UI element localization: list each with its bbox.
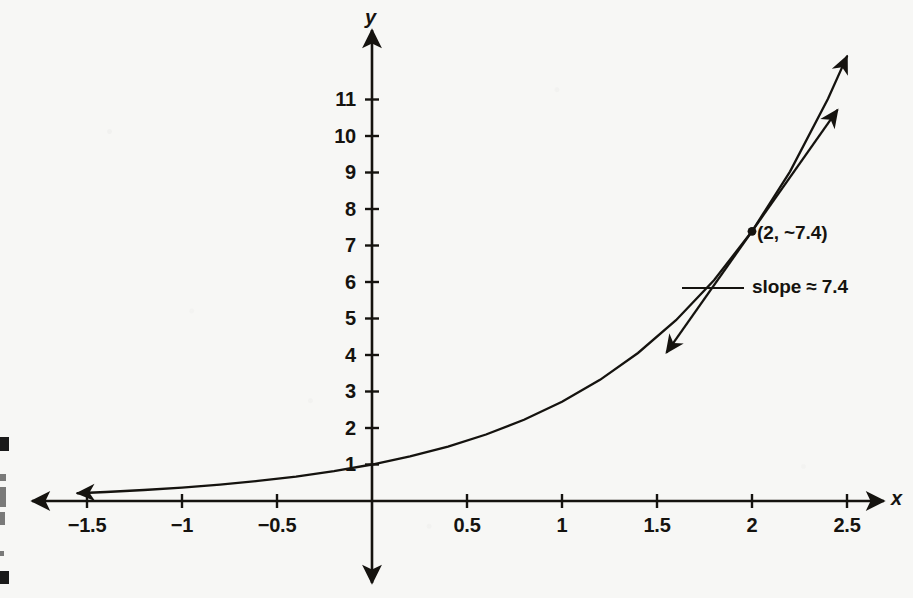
chart-figure: 11 10 9 8 7 6 5 4 3 2 1 −1.5 −1 −0.5 0.5… xyxy=(0,0,913,598)
x-tick-label-neg0-5: −0.5 xyxy=(237,514,317,537)
x-tick-label-neg1: −1 xyxy=(142,514,222,537)
y-tick-label-9: 9 xyxy=(310,161,356,184)
x-tick-label-neg1-5: −1.5 xyxy=(47,514,127,537)
x-tick-label-1: 1 xyxy=(522,514,602,537)
y-tick-label-11: 11 xyxy=(310,88,356,111)
y-tick-label-5: 5 xyxy=(310,307,356,330)
x-tick-label-0-5: 0.5 xyxy=(427,514,507,537)
y-tick-label-2: 2 xyxy=(310,417,356,440)
y-tick-label-10: 10 xyxy=(310,125,356,148)
tangent-point-label: (2, ~7.4) xyxy=(757,222,827,244)
y-tick-label-8: 8 xyxy=(310,198,356,221)
x-tick-label-1-5: 1.5 xyxy=(617,514,697,537)
x-axis-label: x xyxy=(891,487,902,510)
y-tick-label-1: 1 xyxy=(310,453,356,476)
y-tick-label-6: 6 xyxy=(310,271,356,294)
x-tick-label-2: 2 xyxy=(712,514,792,537)
y-tick-label-3: 3 xyxy=(310,380,356,403)
x-tick-label-2-5: 2.5 xyxy=(807,514,887,537)
y-tick-label-4: 4 xyxy=(310,344,356,367)
x-axis xyxy=(32,494,884,508)
tangent-point-marker xyxy=(748,227,757,236)
y-axis-label: y xyxy=(365,6,376,29)
y-tick-label-7: 7 xyxy=(310,234,356,257)
exponential-curve xyxy=(78,56,848,493)
plot-canvas xyxy=(0,0,913,598)
slope-annotation-label: slope ≈ 7.4 xyxy=(752,276,848,298)
